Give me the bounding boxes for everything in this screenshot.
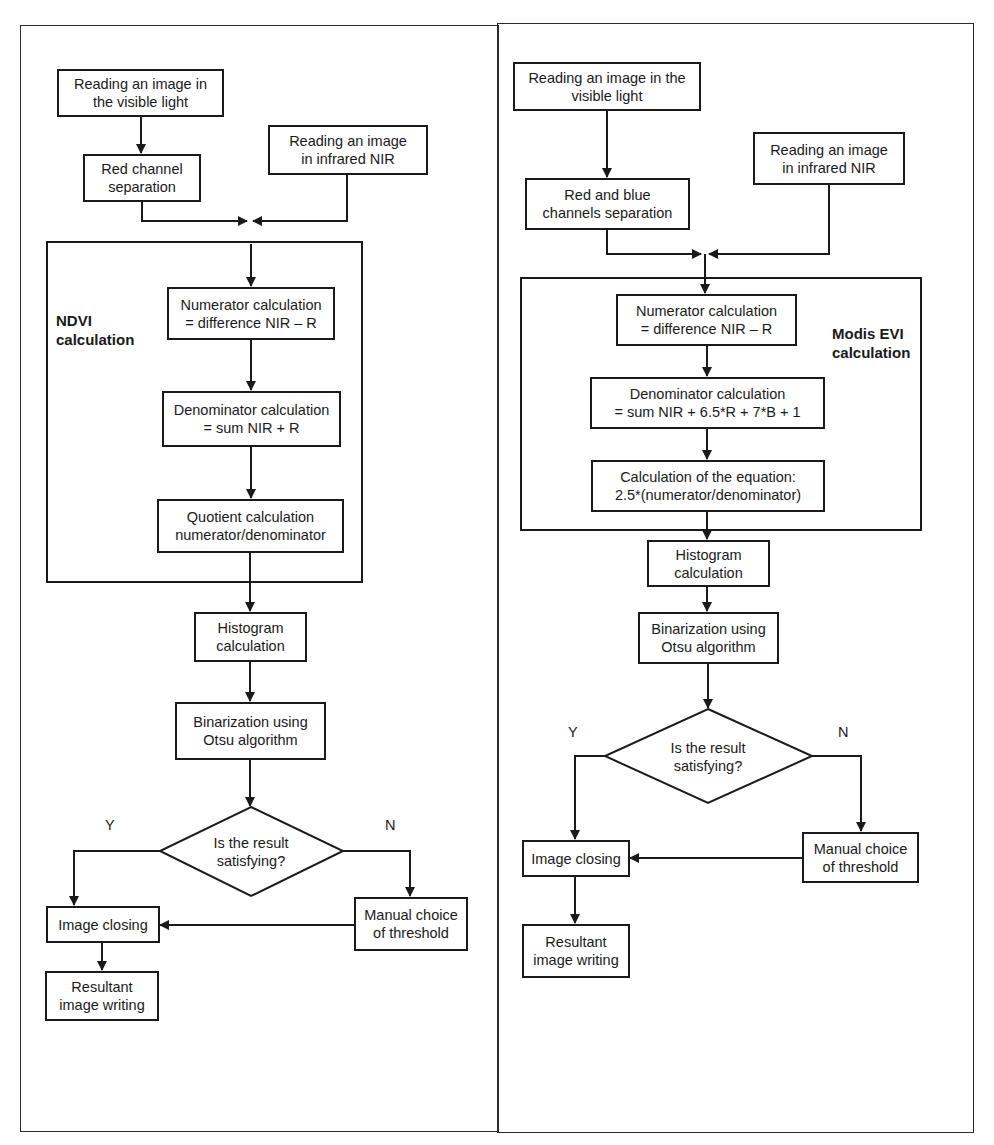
ndvi-decision-text: Is the result satisfying? [190,834,312,870]
ndvi-binarization-node: Binarization using Otsu algorithm [175,702,326,760]
ndvi-quotient-node: Quotient calculation numerator/denominat… [157,499,344,553]
ndvi-manual-threshold-node: Manual choice of threshold [354,897,468,951]
evi-resultant-node: Resultant image writing [522,924,630,978]
evi-numerator-node: Numerator calculation = difference NIR –… [616,294,797,346]
evi-denominator-node: Denominator calculation = sum NIR + 6.5*… [590,377,825,429]
ndvi-read-visible-node: Reading an image in the visible light [57,69,224,117]
ndvi-image-closing-node: Image closing [46,906,160,943]
evi-no-label: N [838,724,848,740]
ndvi-group-label: NDVI calculation [56,311,134,349]
ndvi-numerator-node: Numerator calculation = difference NIR –… [167,287,335,340]
evi-decision-text: Is the result satisfying? [647,739,769,775]
ndvi-no-label: N [385,817,395,833]
evi-manual-threshold-node: Manual choice of threshold [802,832,919,883]
ndvi-histogram-node: Histogram calculation [194,612,307,662]
ndvi-channel-separation-node: Red channel separation [83,154,201,202]
evi-read-nir-node: Reading an image in infrared NIR [753,132,905,185]
ndvi-read-nir-node: Reading an image in infrared NIR [268,125,428,175]
ndvi-yes-label: Y [105,817,115,833]
evi-histogram-node: Histogram calculation [647,540,770,587]
evi-binarization-node: Binarization using Otsu algorithm [638,612,779,664]
ndvi-denominator-node: Denominator calculation = sum NIR + R [162,391,341,447]
evi-read-visible-node: Reading an image in the visible light [513,62,701,111]
evi-image-closing-node: Image closing [522,840,630,877]
evi-channel-separation-node: Red and blue channels separation [525,178,690,230]
ndvi-resultant-node: Resultant image writing [45,971,159,1021]
evi-equation-node: Calculation of the equation: 2.5*(numera… [591,460,825,512]
evi-group-label: Modis EVI calculation [832,324,910,362]
evi-yes-label: Y [568,724,578,740]
